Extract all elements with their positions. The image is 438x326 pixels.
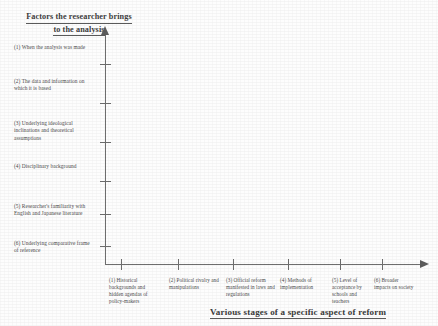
- x-axis-tick: [382, 259, 383, 270]
- x-axis-line: [105, 264, 421, 265]
- y-axis-label-6: (6) Underlying comparative frame of refe…: [14, 240, 92, 255]
- x-axis-tick: [121, 259, 122, 270]
- y-axis-label-4: (4) Disciplinary background: [14, 163, 92, 170]
- x-axis-label-6: (6) Broader impacts on society: [374, 277, 416, 291]
- y-axis-tick: [100, 214, 111, 215]
- y-axis-tick: [100, 142, 111, 143]
- y-axis-label-5: (5) Researcher's familiarity with Englis…: [14, 203, 92, 218]
- x-axis-tick: [233, 259, 234, 270]
- y-axis-title: Factors the researcher brings to the ana…: [9, 11, 149, 36]
- y-axis-tick: [100, 103, 111, 104]
- x-axis-label-5: (5) Level of acceptance by schools and t…: [332, 277, 374, 305]
- x-axis-label-2: (2) Political rivalry and manipulations: [169, 277, 221, 291]
- x-axis-label-1: (1) Historical backgrounds and hidden ag…: [109, 277, 154, 305]
- x-axis-arrow-icon: [420, 260, 429, 268]
- y-axis-tick: [100, 246, 111, 247]
- y-axis-arrow-icon: [101, 26, 109, 35]
- x-axis-tick: [178, 259, 179, 270]
- x-axis-tick: [340, 259, 341, 270]
- x-axis-label-3: (3) Official reform manifested in laws a…: [226, 277, 278, 298]
- y-axis-label-1: (1) When the analysis was made: [14, 44, 92, 51]
- framework-figure: Factors the researcher brings to the ana…: [0, 0, 438, 326]
- y-axis-title-line-1: Factors the researcher brings: [26, 11, 131, 24]
- y-axis-tick: [100, 181, 111, 182]
- y-axis-tick: [100, 64, 111, 65]
- x-axis-tick: [288, 259, 289, 270]
- x-axis-label-4: (4) Methods of implementation: [280, 277, 328, 291]
- x-axis-title: Various stages of a specific aspect of r…: [210, 307, 386, 319]
- y-axis-line: [105, 33, 106, 265]
- y-axis-title-line-2: to the analysis: [53, 24, 104, 37]
- y-axis-label-3: (3) Underlying ideological inclinations …: [14, 120, 92, 142]
- y-axis-label-2: (2) The data and information on which it…: [14, 78, 92, 93]
